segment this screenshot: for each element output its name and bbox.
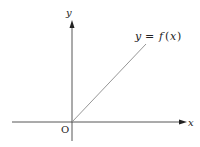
function-graph-diagram: x y O y = f ( x ): [0, 0, 200, 147]
x-axis-arrow-icon: [179, 120, 187, 125]
y-axis-arrow-icon: [70, 20, 75, 28]
curve-label: y = f ( x ): [134, 30, 181, 43]
function-curve: [72, 44, 146, 122]
curve-label-f: f: [158, 30, 165, 43]
x-axis-label: x: [188, 117, 194, 128]
curve-label-x: x: [170, 30, 177, 43]
curve-label-open-paren: (: [165, 30, 169, 43]
y-axis-label: y: [65, 7, 72, 18]
curve-label-equals: =: [145, 30, 154, 43]
origin-label: O: [61, 124, 69, 135]
curve-label-y: y: [134, 30, 142, 43]
curve-label-close-paren: ): [177, 30, 181, 43]
